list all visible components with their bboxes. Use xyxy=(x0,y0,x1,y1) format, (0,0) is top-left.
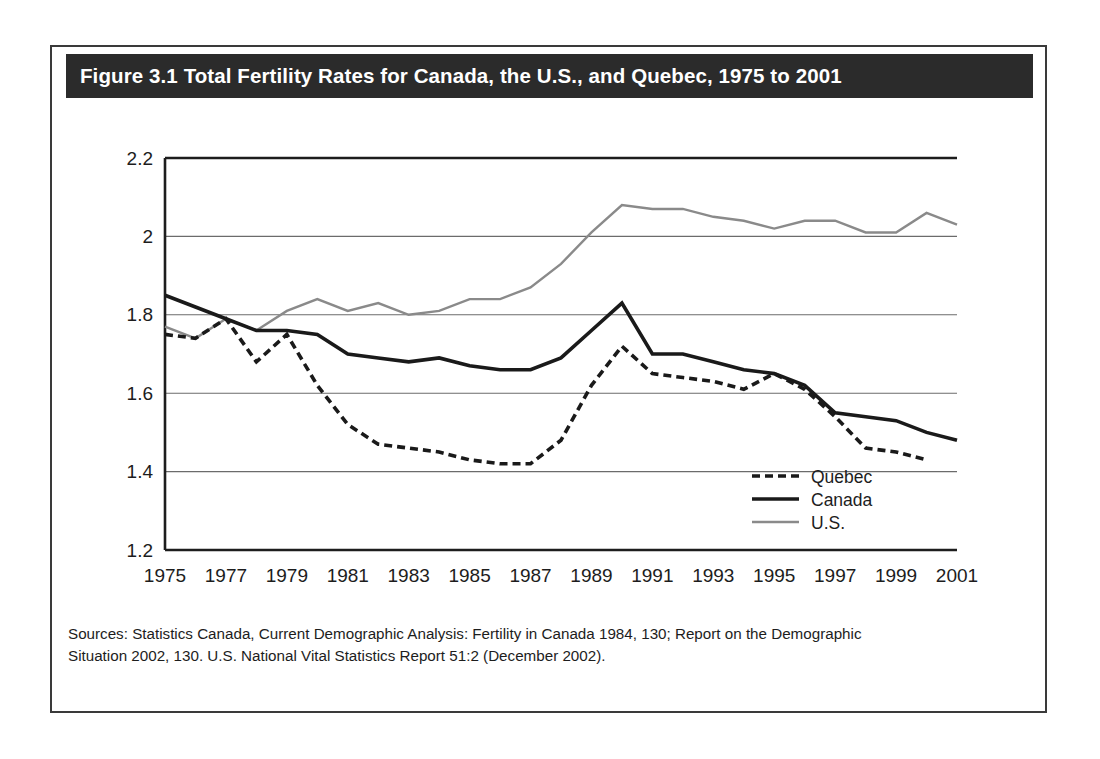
x-axis-tick-label: 1999 xyxy=(875,565,917,586)
fertility-rate-line-chart: 1.21.41.61.822.2197519771979198119831985… xyxy=(52,102,1049,622)
x-axis-tick-label: 2001 xyxy=(936,565,978,586)
x-axis-tick-label: 1987 xyxy=(509,565,551,586)
sources-line-2: Situation 2002, 130. U.S. National Vital… xyxy=(68,645,1028,667)
x-axis-tick-label: 1975 xyxy=(144,565,186,586)
x-axis-tick-label: 1983 xyxy=(388,565,430,586)
x-axis-tick-label: 1993 xyxy=(692,565,734,586)
x-axis-tick-label: 1997 xyxy=(814,565,856,586)
y-axis-tick-label: 1.2 xyxy=(127,540,153,561)
x-axis-tick-label: 1981 xyxy=(327,565,369,586)
series-line-canada xyxy=(165,295,957,440)
y-axis-tick-label: 2.2 xyxy=(127,148,153,169)
figure-title-bar: Figure 3.1 Total Fertility Rates for Can… xyxy=(66,54,1033,98)
x-axis-tick-label: 1985 xyxy=(448,565,490,586)
y-axis-tick-label: 2 xyxy=(142,226,153,247)
series-line-us xyxy=(165,205,957,338)
x-axis-tick-label: 1991 xyxy=(631,565,673,586)
page-title: Figure 3.1 Total Fertility Rates for Can… xyxy=(66,64,842,88)
y-axis-tick-label: 1.8 xyxy=(127,304,153,325)
legend-label-quebec: Quebec xyxy=(811,467,873,487)
sources-note: Sources: Statistics Canada, Current Demo… xyxy=(68,623,1028,667)
x-axis-tick-label: 1995 xyxy=(753,565,795,586)
sources-line-1: Sources: Statistics Canada, Current Demo… xyxy=(68,623,1028,645)
legend-label-us: U.S. xyxy=(811,513,845,533)
x-axis-tick-label: 1977 xyxy=(205,565,247,586)
y-axis-tick-label: 1.4 xyxy=(127,461,154,482)
x-axis-tick-label: 1989 xyxy=(570,565,612,586)
y-axis-tick-label: 1.6 xyxy=(127,383,153,404)
x-axis-tick-label: 1979 xyxy=(266,565,308,586)
figure-container: Figure 3.1 Total Fertility Rates for Can… xyxy=(50,45,1047,713)
legend-label-canada: Canada xyxy=(811,490,873,510)
chart-plot-area: 1.21.41.61.822.2197519771979198119831985… xyxy=(52,102,1049,622)
